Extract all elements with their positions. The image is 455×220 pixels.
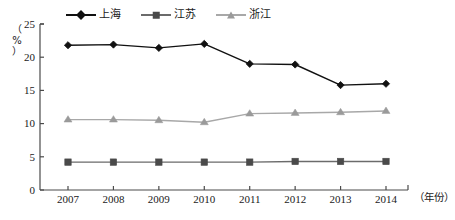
plot-area: 0510152025200720082009201020112012201320… <box>0 0 455 220</box>
svg-text:2011: 2011 <box>239 193 261 205</box>
svg-text:10: 10 <box>24 117 36 129</box>
axis-lines <box>40 24 408 190</box>
svg-text:2009: 2009 <box>148 193 171 205</box>
svg-text:2008: 2008 <box>102 193 125 205</box>
svg-text:20: 20 <box>24 51 36 63</box>
svg-text:2012: 2012 <box>284 193 306 205</box>
svg-text:2013: 2013 <box>330 193 353 205</box>
svg-text:2010: 2010 <box>193 193 216 205</box>
svg-text:2014: 2014 <box>375 193 398 205</box>
series-group <box>64 40 390 165</box>
svg-text:0: 0 <box>30 184 36 196</box>
svg-text:25: 25 <box>24 18 36 30</box>
svg-text:2007: 2007 <box>57 193 80 205</box>
svg-text:15: 15 <box>24 84 36 96</box>
line-chart: 上海 江苏 浙江 （ % ） （年份） 05101520252007200820… <box>0 0 455 220</box>
svg-text:5: 5 <box>30 151 36 163</box>
